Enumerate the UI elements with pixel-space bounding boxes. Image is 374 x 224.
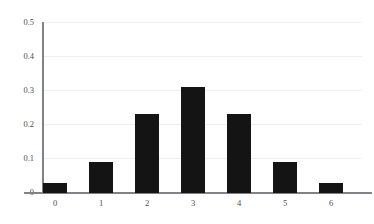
x-axis-tick-label: 4: [219, 199, 259, 208]
plot-area: 0.5 0.4 0.3 0.2 0.1 0 0 1 2 3 4 5 6: [0, 0, 374, 224]
bar: [181, 87, 205, 193]
bar-chart: 0.5 0.4 0.3 0.2 0.1 0 0 1 2 3 4 5 6: [0, 0, 374, 224]
x-axis-tick-label: 0: [35, 199, 75, 208]
x-axis-tick-label: 2: [127, 199, 167, 208]
bar: [89, 162, 113, 193]
bar: [273, 162, 297, 193]
x-axis-tick-label: 3: [173, 199, 213, 208]
bar: [135, 114, 159, 193]
x-axis-tick-label: 6: [311, 199, 351, 208]
x-axis-tick-label: 5: [265, 199, 305, 208]
bar: [43, 183, 67, 193]
bar: [319, 183, 343, 193]
x-axis-tick-label: 1: [81, 199, 121, 208]
bar: [227, 114, 251, 193]
bars-layer: [0, 0, 374, 224]
